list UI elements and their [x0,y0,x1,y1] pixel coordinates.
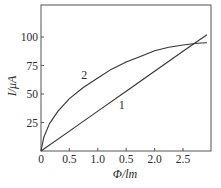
x-tick-label: 2.5 [176,153,191,165]
x-tick-label: 0.5 [62,153,77,165]
curve-label-2: 2 [81,68,87,82]
y-tick-label: 25 [27,117,39,129]
chart: 00.51.00.52.02.5 255075100 12 Φ/lm I/μA [0,0,221,188]
series-lines [41,35,207,151]
x-tick-label: 0 [38,153,44,165]
x-tick-label: 2.0 [147,153,162,165]
x-tick-label: 1.0 [91,153,106,165]
y-tick-label: 100 [21,31,39,43]
y-tick-label: 75 [27,60,39,72]
x-axis-title: Φ/lm [113,167,138,181]
x-tick-label: 0.5 [119,153,134,165]
y-axis-title: I/μA [5,75,19,97]
plot-frame [41,5,211,151]
series-1-line [41,35,207,151]
curve-label-1: 1 [119,98,125,112]
y-tick-label: 50 [27,88,39,100]
